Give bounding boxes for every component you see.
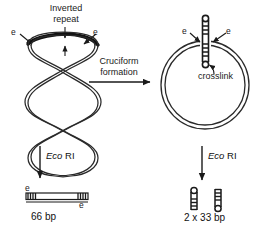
- hairpin-product-1: [191, 187, 197, 210]
- cruciform-formation-diagram: Inverted repeat e e: [0, 0, 262, 233]
- right-digest-graphic: [0, 0, 262, 233]
- hairpin-product-2: [215, 189, 221, 212]
